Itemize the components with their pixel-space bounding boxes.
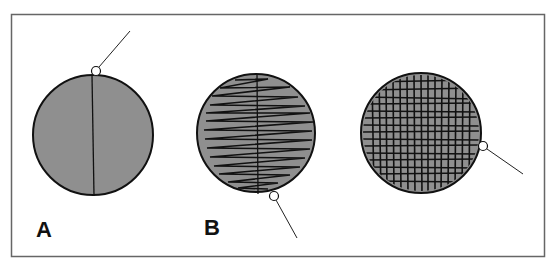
diagram-canvas (0, 0, 560, 273)
circle-c (361, 73, 523, 195)
circle-a (33, 31, 153, 196)
label-b: B (204, 215, 220, 241)
label-a: A (36, 217, 52, 243)
circle-b (197, 74, 315, 238)
pointer-ring (92, 67, 101, 76)
